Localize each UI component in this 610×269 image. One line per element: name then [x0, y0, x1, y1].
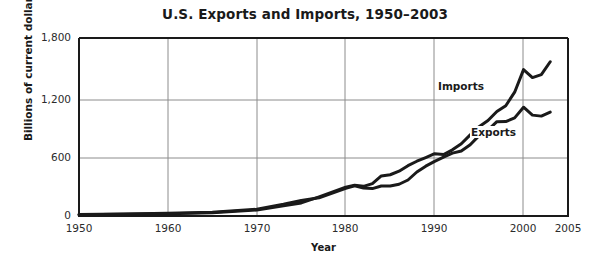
series-annotation-exports: Exports	[470, 126, 517, 138]
chart-figure: U.S. Exports and Imports, 1950–2003 Bill…	[0, 0, 610, 269]
series-annotation-imports: Imports	[437, 80, 485, 92]
line-series-exports	[79, 107, 550, 214]
plot-area	[0, 0, 610, 269]
